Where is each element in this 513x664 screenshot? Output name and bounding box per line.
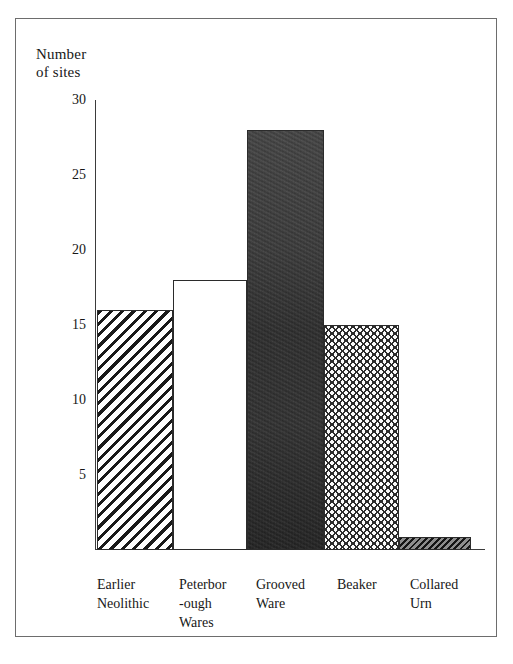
bar-beaker[interactable]: [324, 325, 399, 550]
plot-area: 30 25 20 15 10 5: [95, 100, 485, 568]
y-tick-label: 20: [72, 243, 86, 257]
bar-collared-urn[interactable]: [399, 537, 471, 550]
x-axis-labels: Earlier Neolithic Peterbor -ough Wares G…: [97, 575, 489, 645]
bar-earlier-neolithic[interactable]: [97, 310, 173, 550]
bar-peterborough-wares[interactable]: [173, 280, 247, 550]
y-axis-line: [95, 100, 96, 550]
y-tick-label: 15: [72, 318, 86, 332]
y-tick-label: 10: [72, 393, 86, 407]
x-label-peterborough-wares: Peterbor -ough Wares: [179, 575, 226, 632]
x-label-grooved-ware: Grooved Ware: [256, 575, 305, 613]
y-tick-label: 25: [72, 168, 86, 182]
y-axis-title: Number of sites: [36, 45, 86, 81]
y-tick-label: 30: [72, 93, 86, 107]
x-label-collared-urn: Collared Urn: [410, 575, 458, 613]
y-tick-label: 5: [79, 468, 86, 482]
bar-grooved-ware[interactable]: [247, 130, 324, 550]
bar-series: [97, 100, 485, 550]
figure-frame: Number of sites 30 25 20 15 10 5 Earlier…: [15, 18, 497, 637]
x-label-beaker: Beaker: [337, 575, 377, 594]
x-label-earlier-neolithic: Earlier Neolithic: [97, 575, 149, 613]
